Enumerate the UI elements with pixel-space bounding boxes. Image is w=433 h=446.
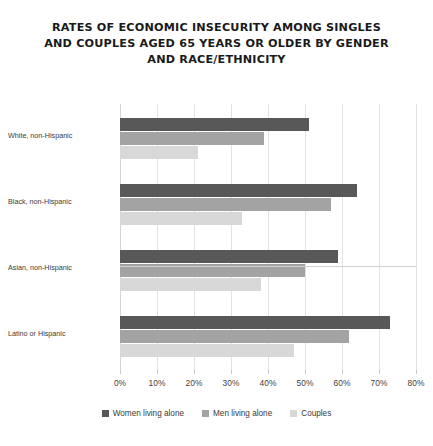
- bar: [120, 198, 331, 211]
- x-tick-mark: [342, 370, 343, 374]
- bar: [120, 132, 264, 145]
- x-tick-mark: [120, 370, 121, 374]
- chart-title: RATES OF ECONOMIC INSECURITY AMONG SINGL…: [24, 20, 409, 68]
- bar: [120, 278, 261, 291]
- chart-title-line-1: RATES OF ECONOMIC INSECURITY AMONG SINGL…: [24, 20, 409, 36]
- x-axis-line: [120, 266, 416, 267]
- gridline-80: [416, 104, 417, 370]
- legend-swatch-icon: [202, 410, 209, 417]
- x-tick-label: 70%: [359, 378, 399, 388]
- x-tick-mark: [416, 370, 417, 374]
- legend-swatch-icon: [102, 410, 109, 417]
- chart-legend: Women living aloneMen living aloneCouple…: [0, 409, 433, 418]
- x-tick-mark: [157, 370, 158, 374]
- legend-label: Men living alone: [213, 409, 272, 418]
- legend-swatch-icon: [290, 410, 297, 417]
- bar-group-black: [120, 184, 416, 226]
- legend-item[interactable]: Men living alone: [202, 409, 272, 418]
- chart-title-line-3: AND RACE/ETHNICITY: [24, 52, 409, 68]
- x-tick-label: 40%: [248, 378, 288, 388]
- bar: [120, 146, 198, 159]
- x-tick-mark: [194, 370, 195, 374]
- x-tick-mark: [305, 370, 306, 374]
- x-tick-mark: [268, 370, 269, 374]
- legend-label: Women living alone: [113, 409, 184, 418]
- bar: [120, 184, 357, 197]
- plot-area: [120, 104, 416, 370]
- x-tick-label: 10%: [137, 378, 177, 388]
- x-tick-label: 30%: [211, 378, 251, 388]
- bar-group-asian: [120, 250, 416, 292]
- x-tick-label: 80%: [396, 378, 433, 388]
- category-label-latino: Latino or Hispanic: [8, 329, 112, 338]
- bar: [120, 250, 338, 263]
- bar: [120, 212, 242, 225]
- x-tick-mark: [379, 370, 380, 374]
- bar: [120, 118, 309, 131]
- chart-title-line-2: AND COUPLES AGED 65 YEARS OR OLDER BY GE…: [24, 36, 409, 52]
- bar-group-latino: [120, 316, 416, 358]
- bar-group-white: [120, 118, 416, 160]
- bar: [120, 330, 349, 343]
- legend-item[interactable]: Couples: [290, 409, 331, 418]
- bar: [120, 316, 390, 329]
- x-tick-label: 0%: [100, 378, 140, 388]
- x-tick-label: 20%: [174, 378, 214, 388]
- bar: [120, 344, 294, 357]
- category-label-white: White, non-Hispanic: [8, 131, 112, 140]
- x-tick-mark: [231, 370, 232, 374]
- category-label-asian: Asian, non-Hispanic: [8, 263, 112, 272]
- x-tick-label: 50%: [285, 378, 325, 388]
- legend-item[interactable]: Women living alone: [102, 409, 184, 418]
- x-tick-label: 60%: [322, 378, 362, 388]
- legend-label: Couples: [301, 409, 331, 418]
- chart-container: RATES OF ECONOMIC INSECURITY AMONG SINGL…: [0, 0, 433, 446]
- category-label-black: Black, non-Hispanic: [8, 197, 112, 206]
